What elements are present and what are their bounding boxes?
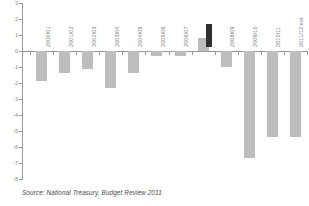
y-tick-label: -3 [6,96,18,102]
x-axis-label: 2005/06 [160,26,166,47]
x-tick-mark [284,51,285,55]
bar [82,51,93,69]
bar [221,51,232,67]
y-tick-label: -4 [6,112,18,118]
x-tick-mark [76,51,77,55]
x-tick-mark [30,51,31,55]
y-tick-mark [19,51,23,52]
x-tick-mark [215,51,216,55]
x-tick-mark [238,51,239,55]
y-tick-mark [19,35,23,36]
bar [36,51,47,81]
y-tick-label: 3 [6,0,18,6]
x-tick-mark [122,51,123,55]
bar [244,51,255,158]
source-note: Source: National Treasury, Budget Review… [22,189,162,196]
x-axis-label: 2001/02 [68,26,74,47]
x-axis-label: 2003/04 [114,26,120,47]
x-tick-mark [53,51,54,55]
y-tick-label: -5 [6,128,18,134]
y-tick-mark [19,3,23,4]
y-tick-label: -7 [6,160,18,166]
x-tick-mark [261,51,262,55]
bar [290,51,301,137]
x-axis-label: 2009/10 [252,26,258,47]
y-tick-mark [19,179,23,180]
y-tick-mark [19,115,23,116]
x-tick-mark [307,51,308,55]
x-axis-label: 2007/08 [206,24,212,47]
y-tick-mark [19,19,23,20]
y-tick-mark [19,83,23,84]
y-tick-mark [19,131,23,132]
bar [175,51,186,56]
y-tick-label: 0 [6,48,18,54]
bar [59,51,70,73]
x-axis-label: 2011/12 est [298,13,304,47]
x-tick-mark [192,51,193,55]
bar [267,51,278,137]
y-axis-line [22,3,23,179]
y-tick-label: -1 [6,64,18,70]
bar [128,51,139,73]
bar-chart: 3210-1-2-3-4-5-6-7-8 2000/012001/022002/… [0,0,309,206]
bar [151,51,162,56]
x-axis-label: 2010/11 [275,27,281,47]
y-tick-mark [19,147,23,148]
bar [105,51,116,88]
y-tick-mark [19,163,23,164]
plot-area: 3210-1-2-3-4-5-6-7-8 2000/012001/022002/… [22,3,307,179]
x-axis-label: 2008/09 [229,26,235,47]
x-tick-mark [145,51,146,55]
y-tick-mark [19,99,23,100]
y-tick-label: -8 [6,176,18,182]
y-tick-label: 1 [6,32,18,38]
x-axis-label: 2004/05 [137,26,143,47]
x-tick-mark [99,51,100,55]
y-tick-label: 2 [6,16,18,22]
y-tick-mark [19,67,23,68]
x-axis-label: 2006/07 [183,26,189,47]
y-tick-label: -2 [6,80,18,86]
x-axis-label: 2000/01 [45,26,51,47]
y-tick-label: -6 [6,144,18,150]
x-tick-mark [169,51,170,55]
x-axis-label: 2002/03 [91,26,97,47]
